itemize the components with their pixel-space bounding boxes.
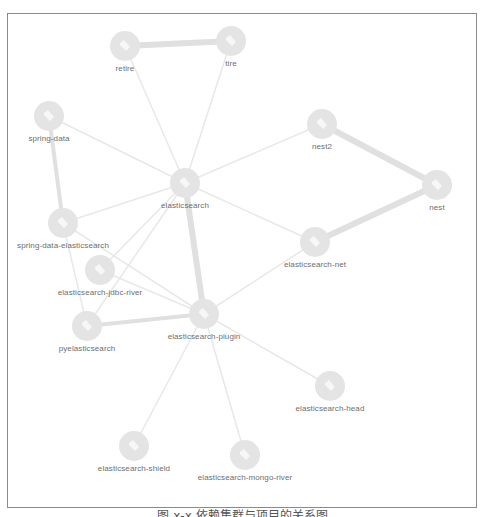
node-label-elasticsearch-mongo-river: elasticsearch-mongo-river (198, 473, 293, 482)
edge-retire-tire (125, 41, 231, 46)
node-label-pyelasticsearch: pyelasticsearch (59, 344, 116, 353)
node-nest2[interactable] (307, 109, 337, 139)
node-label-elasticsearch-net: elasticsearch-net (284, 260, 346, 269)
node-elasticsearch-plugin[interactable] (189, 299, 219, 329)
node-pyelasticsearch[interactable] (72, 311, 102, 341)
edge-pyelasticsearch-elasticsearch-plugin (87, 314, 204, 326)
edge-nest2-elasticsearch (185, 124, 322, 183)
node-label-tire: tire (225, 59, 237, 68)
node-nest[interactable] (422, 170, 452, 200)
node-elasticsearch-mongo-river[interactable] (230, 440, 260, 470)
edge-spring-data-elasticsearch-pyelasticsearch (63, 223, 87, 326)
node-spring-data-elasticsearch[interactable] (48, 208, 78, 238)
node-label-retire: retire (116, 64, 135, 73)
edge-spring-data-spring-data-elasticsearch (49, 116, 63, 223)
node-label-elasticsearch-shield: elasticsearch-shield (98, 464, 170, 473)
node-elasticsearch-shield[interactable] (119, 431, 149, 461)
node-retire[interactable] (110, 31, 140, 61)
edge-elasticsearch-net-elasticsearch-plugin (204, 242, 315, 314)
figure-caption: 图 x-x 依赖集群与项目的关系图 (0, 509, 485, 517)
edge-elasticsearch-elasticsearch-net (185, 183, 315, 242)
node-spring-data[interactable] (34, 101, 64, 131)
node-elasticsearch-head[interactable] (315, 371, 345, 401)
node-tire[interactable] (216, 26, 246, 56)
node-label-spring-data-elasticsearch: spring-data-elasticsearch (17, 241, 109, 250)
node-elasticsearch-net[interactable] (300, 227, 330, 257)
node-label-elasticsearch: elasticsearch (161, 201, 209, 210)
edge-tire-elasticsearch (185, 41, 231, 183)
node-label-elasticsearch-head: elasticsearch-head (296, 404, 365, 413)
node-label-nest: nest (429, 203, 445, 212)
node-elasticsearch-jdbc-river[interactable] (85, 255, 115, 285)
node-elasticsearch[interactable] (170, 168, 200, 198)
edge-elasticsearch-elasticsearch-jdbc-river (100, 183, 185, 270)
edge-spring-data-elasticsearch (49, 116, 185, 183)
edge-elasticsearch-plugin-elasticsearch-head (204, 314, 330, 386)
node-label-elasticsearch-plugin: elasticsearch-plugin (168, 332, 241, 341)
node-label-elasticsearch-jdbc-river: elasticsearch-jdbc-river (58, 288, 143, 297)
node-label-spring-data: spring-data (28, 134, 69, 143)
edge-nest2-nest (322, 124, 437, 185)
node-label-nest2: nest2 (312, 142, 332, 151)
edge-nest-elasticsearch-net (315, 185, 437, 242)
network-graph (0, 0, 485, 517)
